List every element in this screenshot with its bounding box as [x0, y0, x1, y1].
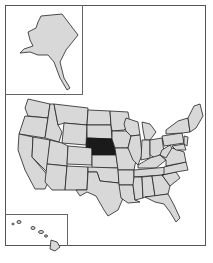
state-michigan[interactable]: [142, 122, 156, 140]
state-florida[interactable]: [145, 194, 180, 222]
state-colorado[interactable]: [67, 146, 92, 165]
state-pennsylvania[interactable]: [162, 133, 184, 146]
state-washington[interactable]: [25, 99, 50, 118]
state-new-mexico[interactable]: [65, 166, 88, 190]
us-map: [0, 0, 213, 263]
state-new-england[interactable]: [188, 104, 203, 132]
contiguous-us: [18, 99, 203, 222]
state-arkansas[interactable]: [118, 170, 134, 185]
state-new-york[interactable]: [166, 118, 190, 134]
state-utah[interactable]: [47, 140, 68, 166]
state-wyoming[interactable]: [62, 123, 87, 145]
state-south-dakota[interactable]: [87, 125, 112, 139]
state-indiana[interactable]: [141, 140, 150, 160]
state-new-jersey[interactable]: [184, 136, 188, 146]
state-montana[interactable]: [54, 104, 88, 125]
state-arizona[interactable]: [45, 164, 67, 190]
hawaii[interactable]: [12, 221, 60, 252]
state-mississippi[interactable]: [133, 177, 143, 200]
state-north-dakota[interactable]: [87, 110, 111, 125]
state-kansas[interactable]: [92, 155, 118, 168]
state-alaska[interactable]: [20, 14, 78, 90]
